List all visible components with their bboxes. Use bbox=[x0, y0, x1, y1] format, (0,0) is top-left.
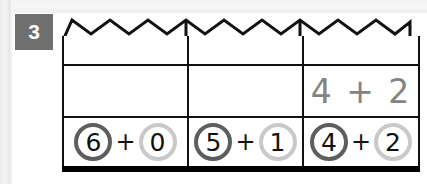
torn-cell-3 bbox=[303, 36, 419, 65]
expression-3: 4 + 2 bbox=[304, 118, 418, 166]
exercise-table: 4 + 2 6 + 0 5 + 1 bbox=[62, 36, 420, 172]
worksheet-page: 3 4 + 2 bbox=[0, 0, 427, 184]
expression-cell-2: 5 + 1 bbox=[188, 117, 303, 169]
expression-1: 6 + 0 bbox=[64, 118, 187, 166]
circled-operand-right-2: 1 bbox=[259, 123, 297, 161]
table-row-torn-top bbox=[63, 36, 419, 65]
circled-operand-left-3: 4 bbox=[310, 123, 348, 161]
scan-left-edge bbox=[0, 0, 13, 184]
expression-cell-1: 6 + 0 bbox=[63, 117, 188, 169]
exercise-grid: 4 + 2 6 + 0 5 + 1 bbox=[62, 16, 412, 168]
plus-sign-2: + bbox=[233, 128, 257, 156]
circled-operand-left-1: 6 bbox=[74, 123, 112, 161]
expression-cell-3: 4 + 2 bbox=[303, 117, 419, 169]
answer-text-3: 4 + 2 bbox=[304, 75, 418, 108]
task-number-badge: 3 bbox=[15, 14, 53, 50]
answer-cell-3[interactable]: 4 + 2 bbox=[303, 65, 419, 117]
answer-cell-2[interactable] bbox=[188, 65, 303, 117]
plus-sign-1: + bbox=[113, 128, 137, 156]
circled-operand-right-1: 0 bbox=[139, 123, 177, 161]
circled-operand-right-3: 2 bbox=[374, 123, 412, 161]
table-row-given-expressions: 6 + 0 5 + 1 4 + 2 bbox=[63, 117, 419, 169]
scan-top-edge bbox=[0, 0, 427, 13]
torn-cell-1 bbox=[63, 36, 188, 65]
circled-operand-left-2: 5 bbox=[194, 123, 232, 161]
expression-2: 5 + 1 bbox=[189, 118, 302, 166]
answer-cell-1[interactable] bbox=[63, 65, 188, 117]
plus-sign-3: + bbox=[349, 128, 373, 156]
table-row-answers: 4 + 2 bbox=[63, 65, 419, 117]
torn-cell-2 bbox=[188, 36, 303, 65]
